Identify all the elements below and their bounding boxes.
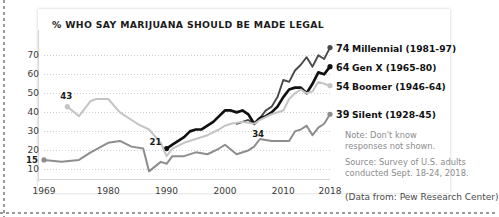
x-tick-label: 1990 (155, 186, 178, 196)
series-end-marker (327, 112, 332, 117)
data-point-label: 34 (252, 129, 264, 139)
legend-label: Silent (1928-45) (352, 109, 436, 120)
data-point-label: 21 (150, 137, 162, 147)
x-tick-label: 1980 (97, 186, 120, 196)
y-tick-label: 60 (28, 69, 39, 79)
legend-label: Millennial (1981-97) (352, 42, 456, 53)
data-point-label: 43 (60, 91, 72, 101)
page-left-dotted-border (3, 0, 5, 217)
y-tick-label: 50 (28, 88, 39, 98)
legend-value: 54 (336, 80, 349, 91)
series-line (167, 67, 330, 149)
chart-note: Note: Don't know responses not shown. (345, 130, 495, 152)
legend-label: Gen X (1965-80) (352, 61, 436, 72)
y-tick-label: 20 (28, 145, 39, 155)
x-tick-label: 2018 (319, 186, 342, 196)
series-start-marker (41, 157, 46, 162)
series-line (67, 82, 330, 156)
x-tick-label: 2010 (272, 186, 295, 196)
chart-source: Source: Survey of U.S. adults conducted … (345, 157, 495, 179)
legend-value: 64 (336, 61, 349, 72)
page-bottom-dotted-border (0, 212, 498, 214)
x-axis-line (38, 179, 330, 180)
series-lines (44, 40, 330, 179)
series-end-marker (327, 83, 332, 88)
x-tick-label: 2000 (213, 186, 236, 196)
y-tick-label: 30 (28, 126, 39, 136)
plot-area: 10203040506070 196919801990200020102018 … (44, 40, 330, 179)
legend-value: 74 (336, 42, 349, 53)
series-end-marker (327, 64, 332, 69)
y-tick-label: 70 (28, 50, 39, 60)
legend-label: Boomer (1946-64) (352, 80, 446, 91)
data-point-label: 15 (26, 155, 38, 165)
y-tick-label: 40 (28, 107, 39, 117)
y-tick-label: 10 (28, 164, 39, 174)
legend-value: 39 (336, 109, 349, 120)
series-end-marker (327, 45, 332, 50)
chart-title: % WHO SAY MARIJUANA SHOULD BE MADE LEGAL (52, 19, 324, 30)
x-tick-label: 1969 (33, 186, 56, 196)
series-start-marker (65, 104, 70, 109)
chart-credit: (Data from: Pew Research Center) (345, 192, 499, 202)
